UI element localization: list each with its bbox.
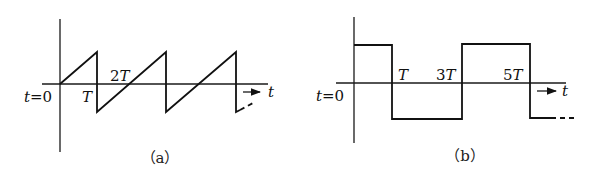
- figure-b-caption: （b）: [445, 147, 485, 165]
- figure-a-caption: （a）: [141, 149, 180, 167]
- figure-a-axis-label: t: [268, 83, 275, 101]
- figure-a-continuation-dash: [240, 103, 253, 110]
- figure-a-origin-label: t=0: [24, 88, 52, 106]
- figure-b-tick-5T: 5T: [503, 66, 524, 84]
- diagram-canvas: t=0 T 2T t （a） t=0 T 3T 5T t （b）: [0, 0, 593, 181]
- figure-b-square-wave: t=0 T 3T 5T t （b）: [316, 17, 576, 165]
- figure-a-sawtooth: t=0 T 2T t （a）: [24, 19, 275, 167]
- figure-a-tick-2T: 2T: [110, 67, 131, 85]
- figure-b-axis-label: t: [562, 82, 569, 100]
- figure-b-origin-label: t=0: [316, 87, 344, 105]
- figure-a-tick-T: T: [82, 88, 93, 106]
- figure-b-tick-T: T: [398, 66, 409, 84]
- figure-b-tick-3T: 3T: [436, 66, 457, 84]
